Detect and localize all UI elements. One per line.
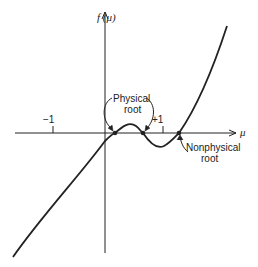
physical-root-marker-1 (113, 131, 118, 136)
tick-label-plus-one: +1 (152, 114, 164, 125)
nonphysical-root-label-line1: Nonphysical (186, 142, 240, 153)
tick-label-minus-one: −1 (43, 114, 55, 125)
physical-root-marker-2 (141, 131, 146, 136)
nonphysical-root-label-line2: root (201, 153, 218, 164)
physical-root-label-line2: root (124, 104, 141, 115)
physical-root-label-line1: Physical (113, 93, 150, 104)
nonphysical-root-marker (177, 131, 182, 136)
x-axis-label: μ (239, 126, 246, 138)
nonphysical-root-arrowhead-icon (177, 135, 183, 140)
chart-canvas: μ f (μ) −1 +1 Physical root Nonphysical … (0, 0, 258, 267)
y-axis-label: f (μ) (97, 11, 116, 24)
